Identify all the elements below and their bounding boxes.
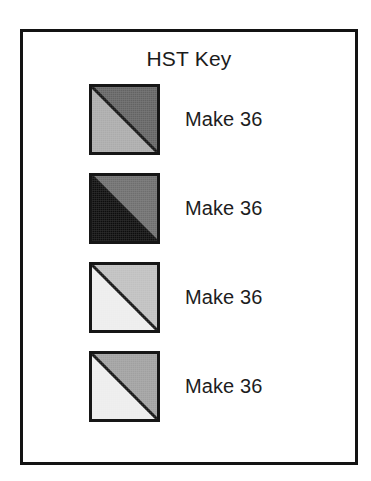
page-title: HST Key bbox=[23, 46, 355, 71]
page-root: HST Key Make 36 bbox=[0, 0, 371, 481]
hst-block-gray-over-black bbox=[89, 173, 160, 244]
hst-block-fill bbox=[92, 176, 157, 241]
hst-key-row: Make 36 bbox=[23, 351, 355, 440]
hst-block-fill bbox=[92, 265, 157, 330]
hst-row-label: Make 36 bbox=[185, 195, 262, 221]
hst-key-row-list: Make 36 Make 36 bbox=[23, 84, 355, 440]
hst-key-row: Make 36 bbox=[23, 173, 355, 262]
hst-block-dark-gray-over-light-gray bbox=[89, 84, 160, 155]
hst-key-frame: HST Key Make 36 bbox=[20, 29, 358, 465]
hst-block-light-gray-over-white bbox=[89, 262, 160, 333]
hst-row-label: Make 36 bbox=[185, 284, 262, 310]
hst-block-fill bbox=[92, 354, 157, 419]
hst-key-row: Make 36 bbox=[23, 262, 355, 351]
hst-key-row: Make 36 bbox=[23, 84, 355, 173]
hst-block-medium-gray-over-white bbox=[89, 351, 160, 422]
hst-block-fill bbox=[92, 87, 157, 152]
hst-row-label: Make 36 bbox=[185, 373, 262, 399]
hst-row-label: Make 36 bbox=[185, 106, 262, 132]
